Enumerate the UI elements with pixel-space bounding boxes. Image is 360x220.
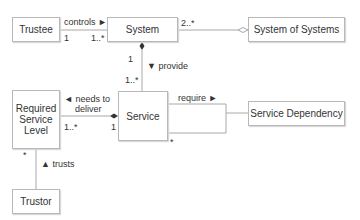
- multiplicity: 1: [64, 33, 69, 43]
- multiplicity: 2..*: [181, 18, 195, 28]
- class-name: Required Service Level: [16, 103, 57, 136]
- class-name: System: [126, 24, 159, 35]
- multiplicity: 1: [111, 122, 116, 132]
- multiplicity: *: [23, 150, 27, 160]
- class-trustee[interactable]: Trustee: [12, 17, 60, 42]
- composition-diamond-icon: [140, 42, 145, 50]
- class-service-dependency[interactable]: Service Dependency: [248, 101, 345, 126]
- aggregation-diamond-icon: [238, 28, 248, 33]
- class-trustor[interactable]: Trustor: [12, 189, 60, 214]
- multiplicity: *: [170, 137, 174, 147]
- assoc-label-needs-to-deliver: ◄ needs to: [64, 94, 110, 104]
- multiplicity: 1..*: [64, 122, 78, 132]
- assoc-label-require: require ►: [178, 93, 217, 103]
- class-service[interactable]: Service: [118, 91, 168, 141]
- class-system-of-systems[interactable]: System of Systems: [248, 17, 345, 42]
- multiplicity: 1..*: [91, 33, 105, 43]
- class-system[interactable]: System: [107, 17, 178, 42]
- class-name: Trustee: [19, 24, 53, 35]
- multiplicity: 1..*: [125, 75, 139, 85]
- class-name: Service: [126, 111, 159, 122]
- class-name: Trustor: [20, 196, 51, 207]
- multiplicity: 1: [128, 54, 133, 64]
- assoc-label-provide: ▼ provide: [147, 61, 188, 71]
- composition-diamond-icon: [110, 114, 118, 119]
- class-name: Service Dependency: [250, 108, 342, 119]
- assoc-label-controls: controls ►: [64, 17, 107, 27]
- assoc-label-needs-to-deliver: deliver: [75, 104, 102, 114]
- class-required-service-level[interactable]: Required Service Level: [12, 90, 60, 149]
- assoc-label-trusts: ▲ trusts: [41, 159, 74, 169]
- class-name: System of Systems: [254, 24, 340, 35]
